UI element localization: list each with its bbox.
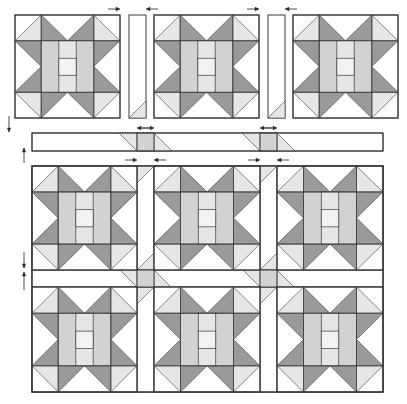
sashing-strip — [137, 166, 154, 270]
arrow-left-icon — [277, 158, 289, 162]
center-square — [198, 331, 215, 348]
star-block — [277, 166, 383, 270]
star-block — [154, 15, 259, 118]
cornerstone-square — [137, 133, 154, 151]
center-square — [321, 210, 338, 227]
arrow-left-icon — [146, 7, 158, 11]
arrow-up-icon — [22, 148, 25, 163]
sashing-strip — [260, 166, 277, 270]
arrow-right-icon — [142, 126, 154, 130]
sashing-strip — [260, 287, 277, 392]
star-block — [154, 287, 260, 392]
center-square — [337, 58, 354, 75]
star-block — [154, 166, 260, 270]
star-block — [277, 287, 383, 392]
vertical-sashing-strip — [260, 166, 277, 270]
arrow-right-icon — [247, 7, 259, 11]
arrow-down-icon — [22, 252, 25, 268]
vertical-sashing-strip — [268, 15, 285, 118]
sashing-strip — [268, 15, 285, 118]
star-block — [293, 15, 398, 118]
arrow-right-icon — [108, 7, 120, 11]
vertical-sashing-strip — [137, 287, 154, 392]
center-square — [198, 58, 215, 75]
star-block — [32, 287, 137, 392]
assembled-quilt-top — [32, 166, 383, 392]
cornerstone-square — [137, 270, 154, 287]
center-square — [321, 331, 338, 348]
arrow-up-icon — [22, 272, 25, 290]
center-square — [59, 58, 76, 75]
vertical-sashing-strip — [260, 287, 277, 392]
arrow-right-icon — [125, 158, 137, 162]
cornerstone-square — [260, 270, 277, 287]
vertical-sashing-strip — [137, 166, 154, 270]
diagram-canvas — [0, 0, 407, 404]
arrow-left-icon — [154, 158, 166, 162]
top-row-blocks-and-sashing — [15, 15, 398, 118]
center-square — [76, 331, 93, 348]
center-square — [198, 210, 215, 227]
arrow-right-icon — [248, 158, 260, 162]
sashing-strip — [129, 15, 146, 118]
arrow-right-icon — [265, 126, 277, 130]
horizontal-sashing-strip — [32, 270, 383, 287]
sashing-strip — [32, 270, 383, 287]
arrow-left-icon — [285, 7, 297, 11]
star-block — [32, 166, 137, 270]
star-block — [15, 15, 120, 118]
sashing-row-with-cornerstones — [32, 133, 383, 151]
horizontal-sashing-strip — [32, 133, 383, 151]
vertical-sashing-strip — [129, 15, 146, 118]
sashing-strip — [137, 287, 154, 392]
center-square — [76, 210, 93, 227]
cornerstone-square — [260, 133, 277, 151]
arrow-down-icon — [7, 116, 10, 132]
quilt-assembly-diagram: Quilt assembly diagram — [0, 0, 407, 404]
